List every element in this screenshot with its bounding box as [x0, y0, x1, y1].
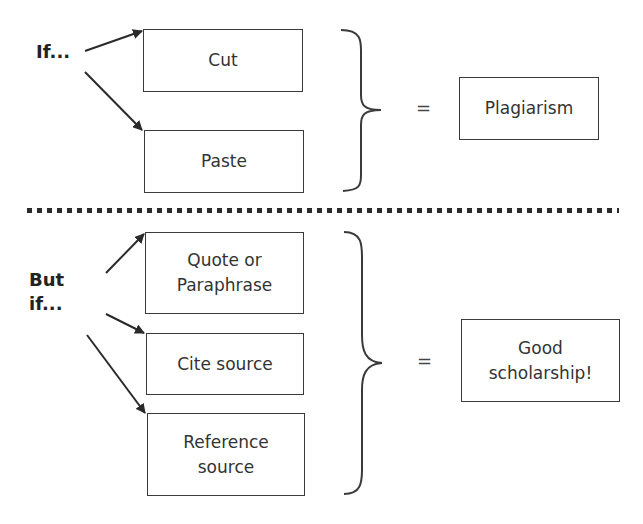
quote-paraphrase-box: Quote or Paraphrase [145, 232, 304, 314]
good-line1: Good [489, 336, 592, 361]
arrow-to-cite [106, 314, 144, 333]
dotted-divider [27, 208, 619, 213]
arrow-to-reference [87, 335, 145, 413]
reference-line2: source [183, 455, 269, 480]
if-label: If... [36, 40, 70, 64]
plagiarism-box: Plagiarism [459, 77, 599, 140]
but-if-label: But if... [29, 268, 64, 316]
arrow-to-paste [85, 72, 142, 130]
good-line2: scholarship! [489, 361, 592, 386]
bottom-brace-icon [344, 232, 382, 494]
cut-text: Cut [208, 48, 237, 73]
bottom-equals-sign: = [417, 350, 432, 371]
cite-source-text: Cite source [177, 352, 273, 377]
quote-line1: Quote or [177, 248, 273, 273]
cut-box: Cut [143, 29, 303, 92]
but-if-line2: if... [29, 292, 64, 316]
quote-line2: Paraphrase [177, 273, 273, 298]
top-brace-icon [341, 30, 381, 191]
arrow-to-quote [106, 234, 144, 273]
paste-text: Paste [201, 149, 247, 174]
arrow-to-cut [85, 31, 142, 51]
plagiarism-text: Plagiarism [485, 96, 573, 121]
reference-line1: Reference [183, 430, 269, 455]
cite-source-box: Cite source [146, 333, 304, 395]
but-if-line1: But [29, 268, 64, 292]
reference-source-box: Reference source [147, 413, 305, 496]
good-scholarship-box: Good scholarship! [461, 319, 620, 402]
top-equals-sign: = [416, 97, 431, 118]
paste-box: Paste [144, 130, 304, 193]
